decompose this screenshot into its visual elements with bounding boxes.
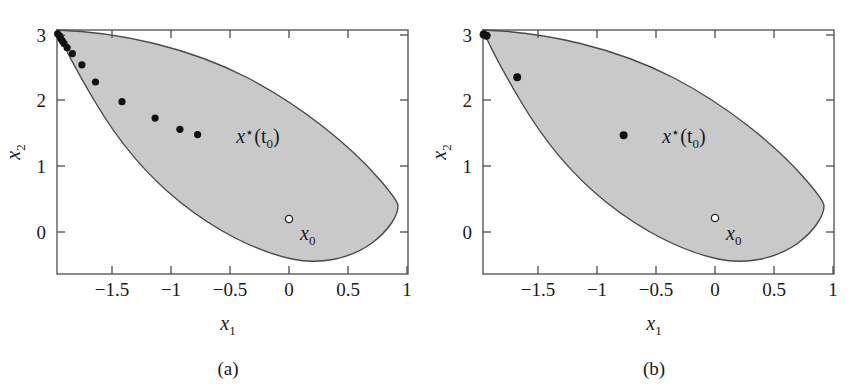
y-tick-label-3: 3 [463,25,473,46]
y-tick-label-0: 0 [37,222,47,243]
y-tick-label-1: 1 [37,156,47,177]
x-tick-label-neg0p5: −0.5 [213,279,247,300]
y-tick-label-2: 2 [37,90,47,111]
figure-container: 3 2 1 0 −1.5 −1 −0.5 0 0.5 1 x1 x2 [0,0,852,388]
y-tick-label-0: 0 [463,222,473,243]
x-axis-title-a: x1 [219,312,235,338]
y-axis-title-b: x2 [428,144,454,160]
x-tick-label-0: 0 [710,279,720,300]
x-tick-label-neg0p5: −0.5 [639,279,673,300]
x-axis-title-b: x1 [645,312,661,338]
plot-b-svg: 3 2 1 0 −1.5 −1 −0.5 0 0.5 1 x1 x2 [426,0,852,388]
x-tick-label-0: 0 [284,279,294,300]
y-axis-title-a: x2 [2,144,28,160]
panel-a: 3 2 1 0 −1.5 −1 −0.5 0 0.5 1 x1 x2 [0,0,426,388]
x-tick-label-neg1: −1 [587,279,607,300]
panel-b: 3 2 1 0 −1.5 −1 −0.5 0 0.5 1 x1 x2 [426,0,852,388]
panel-caption-b: (b) [643,358,665,380]
x-tick-label-neg1: −1 [161,279,181,300]
panel-caption-a: (a) [217,358,238,380]
y-tick-label-2: 2 [463,90,473,111]
x-tick-label-0p5: 0.5 [336,279,360,300]
x-tick-label-1: 1 [402,279,412,300]
x-tick-label-neg1p5: −1.5 [521,279,555,300]
x0-marker-a [285,215,292,222]
feasible-region-b [483,30,824,261]
x-tick-label-1: 1 [828,279,838,300]
x0-marker-b [711,214,718,221]
x-tick-label-0p5: 0.5 [762,279,786,300]
y-tick-label-3: 3 [37,25,47,46]
y-tick-label-1: 1 [463,156,473,177]
feasible-region-a [57,30,398,261]
plot-a-svg: 3 2 1 0 −1.5 −1 −0.5 0 0.5 1 x1 x2 [0,0,426,388]
x-tick-label-neg1p5: −1.5 [95,279,129,300]
